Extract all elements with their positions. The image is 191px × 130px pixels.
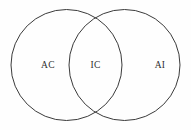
label-right-only: AI	[155, 60, 166, 70]
venn-diagram: AC IC AI	[0, 0, 191, 130]
label-intersection: IC	[90, 60, 100, 70]
label-left-only: AC	[41, 60, 55, 70]
venn-diagram-canvas: AC IC AI	[0, 0, 191, 130]
